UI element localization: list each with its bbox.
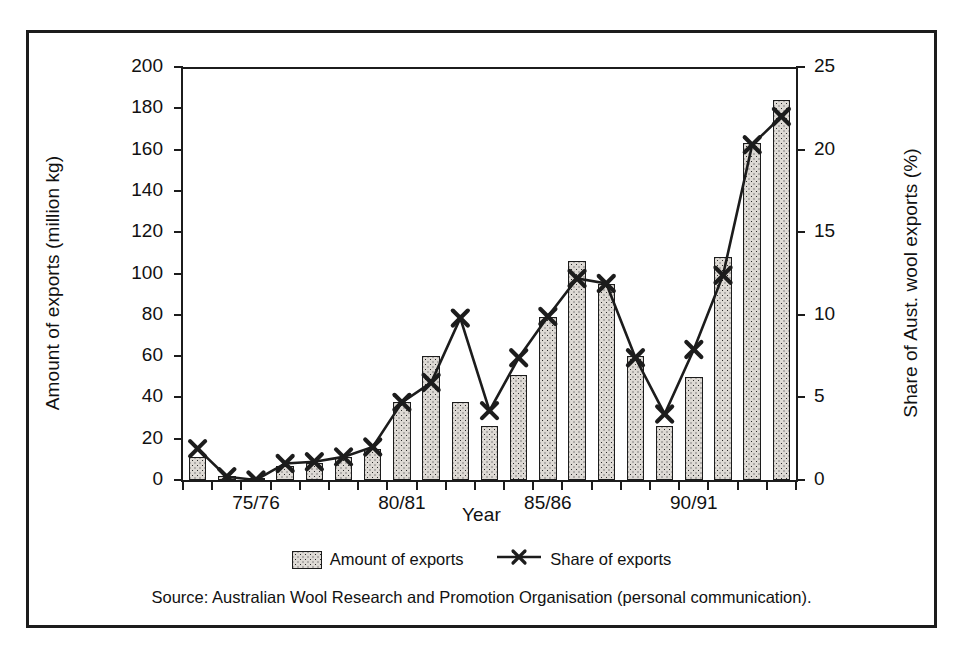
y-axis-left-tick-label: 0 — [103, 468, 163, 490]
y-axis-right-title: Share of Aust. wool exports (%) — [900, 118, 922, 448]
y-axis-left-tick-label: 100 — [103, 262, 163, 284]
x-marker-icon — [686, 342, 701, 357]
x-axis-tick — [270, 480, 272, 490]
legend-item-share-of-exports: Share of exports — [496, 548, 671, 570]
bar — [247, 478, 265, 480]
x-marker-icon — [453, 311, 468, 326]
y-axis-right-tick — [796, 149, 805, 151]
bar — [218, 476, 236, 480]
x-axis-tick-label: 75/76 — [196, 492, 316, 514]
y-axis-right-tick-label: 5 — [814, 385, 874, 407]
y-axis-left-tick — [174, 107, 183, 109]
y-axis-right-tick — [796, 314, 805, 316]
legend-label-share-of-exports: Share of exports — [550, 550, 671, 569]
x-axis-tick — [678, 480, 680, 490]
chart-area: Amount of exports (million kg) Share of … — [0, 0, 963, 662]
line-series-share-of-exports — [183, 67, 796, 480]
y-axis-left-tick — [174, 438, 183, 440]
plot-frame-right — [796, 67, 798, 480]
bar — [656, 426, 674, 480]
x-axis-tick — [591, 480, 593, 490]
bar — [335, 457, 353, 480]
y-axis-right-tick — [796, 66, 805, 68]
y-axis-left-tick-label: 200 — [103, 55, 163, 77]
x-axis-tick — [474, 480, 476, 490]
x-axis-tick — [795, 480, 797, 490]
y-axis-left-tick-label: 160 — [103, 138, 163, 160]
y-axis-left-tick — [174, 314, 183, 316]
y-axis-right-tick-label: 0 — [814, 468, 874, 490]
x-axis-tick — [211, 480, 213, 490]
bar — [393, 402, 411, 480]
x-axis-tick — [445, 480, 447, 490]
y-axis-left-tick — [174, 273, 183, 275]
chart-legend: Amount of exports Share of exports — [0, 548, 963, 570]
bar — [510, 375, 528, 480]
legend-item-amount-of-exports: Amount of exports — [292, 549, 464, 569]
bar — [539, 317, 557, 480]
x-axis-tick — [240, 480, 242, 490]
x-marker-icon — [511, 350, 526, 365]
y-axis-right-tick — [796, 396, 805, 398]
x-axis-tick-label: 90/91 — [634, 492, 754, 514]
x-axis-tick — [737, 480, 739, 490]
x-axis-tick — [182, 480, 184, 490]
hatched-square-swatch-icon — [292, 551, 322, 569]
x-axis-tick — [299, 480, 301, 490]
y-axis-right-tick — [796, 231, 805, 233]
y-axis-left-tick-label: 180 — [103, 96, 163, 118]
plot-frame-top — [183, 67, 796, 69]
x-axis-tick — [416, 480, 418, 490]
y-axis-left-tick — [174, 355, 183, 357]
x-axis-tick-label: 85/86 — [488, 492, 608, 514]
x-axis-tick — [357, 480, 359, 490]
plot-area — [183, 67, 796, 480]
y-axis-right-tick-label: 10 — [814, 303, 874, 325]
bar — [598, 284, 616, 480]
bar — [685, 377, 703, 480]
bar — [276, 466, 294, 480]
x-axis-tick — [328, 480, 330, 490]
x-axis-line — [181, 480, 798, 482]
x-marker-line-swatch-icon — [496, 548, 542, 570]
x-axis-tick — [620, 480, 622, 490]
y-axis-left-tick-label: 20 — [103, 427, 163, 449]
y-axis-right-tick-label: 25 — [814, 55, 874, 77]
x-marker-icon — [190, 441, 205, 456]
y-axis-left-tick — [174, 231, 183, 233]
y-axis-left-tick-label: 140 — [103, 179, 163, 201]
y-axis-left-tick-label: 120 — [103, 220, 163, 242]
bar — [364, 449, 382, 480]
bar — [627, 356, 645, 480]
y-axis-right-tick — [796, 479, 805, 481]
y-axis-left-tick-label: 40 — [103, 385, 163, 407]
legend-label-amount-of-exports: Amount of exports — [330, 550, 464, 569]
bar — [714, 257, 732, 480]
bar — [422, 356, 440, 480]
x-axis-title: Year — [0, 504, 963, 526]
source-note: Source: Australian Wool Research and Pro… — [0, 588, 963, 607]
x-axis-tick — [532, 480, 534, 490]
x-axis-tick — [503, 480, 505, 490]
bar — [568, 261, 586, 480]
y-axis-left-tick-label: 60 — [103, 344, 163, 366]
bar — [306, 463, 324, 480]
y-axis-left-tick — [174, 190, 183, 192]
bar — [481, 426, 499, 480]
bar — [189, 457, 207, 480]
bar — [452, 402, 470, 480]
y-axis-left-tick — [174, 66, 183, 68]
x-axis-tick — [561, 480, 563, 490]
y-axis-right-tick-label: 20 — [814, 138, 874, 160]
y-axis-left-tick — [174, 396, 183, 398]
x-axis-tick — [766, 480, 768, 490]
bar — [773, 100, 791, 480]
x-axis-tick — [649, 480, 651, 490]
y-axis-left-tick-label: 80 — [103, 303, 163, 325]
x-axis-tick-label: 80/81 — [342, 492, 462, 514]
y-axis-right-tick-label: 15 — [814, 220, 874, 242]
x-marker-icon — [482, 403, 497, 418]
y-axis-left-tick — [174, 149, 183, 151]
bar — [743, 143, 761, 480]
x-axis-tick — [386, 480, 388, 490]
